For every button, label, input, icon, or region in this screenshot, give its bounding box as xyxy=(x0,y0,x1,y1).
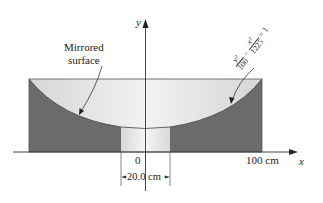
x-axis-arrow-icon xyxy=(289,149,298,155)
mirrored-surface-label: Mirrored surface xyxy=(64,41,104,67)
diagram-canvas xyxy=(0,0,323,203)
origin-label: 0 xyxy=(135,155,141,166)
y-axis-label: y xyxy=(136,17,141,28)
mirrored-surface-label-line2: surface xyxy=(64,54,104,67)
opening-width-label: 20.0 cm xyxy=(127,172,161,183)
y-axis-arrow-icon xyxy=(143,19,149,28)
x-tick-100-label: 100 cm xyxy=(246,155,279,166)
x-axis-label: x xyxy=(299,156,304,167)
mirrored-surface-label-line1: Mirrored xyxy=(64,41,104,54)
